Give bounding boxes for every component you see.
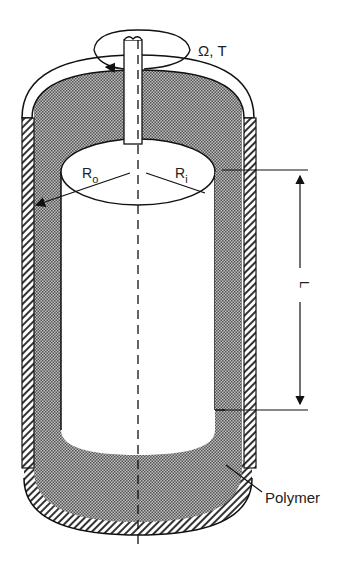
rotation-label: Ω, T: [198, 42, 227, 59]
inner-cylinder: [61, 139, 225, 455]
couette-diagram: Ω, T Ro Ri L Polymer: [0, 0, 344, 565]
shaft: [124, 37, 142, 144]
polymer-label: Polymer: [265, 489, 320, 506]
outer-wall-left: [22, 118, 34, 468]
length-label: L: [297, 281, 312, 288]
